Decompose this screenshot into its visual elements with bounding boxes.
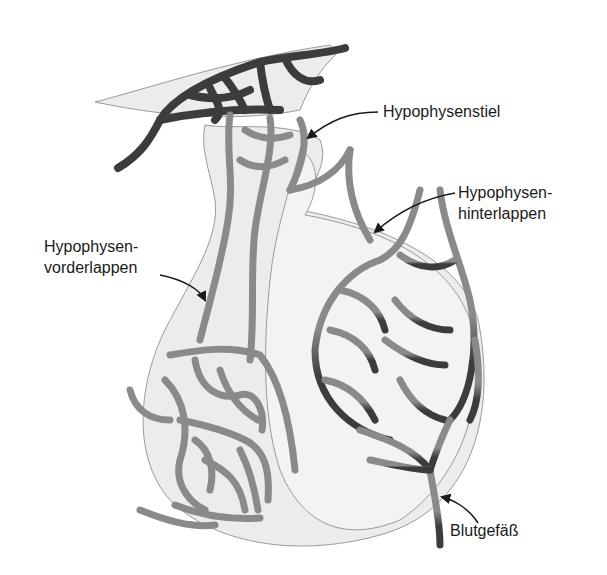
pituitary-diagram [0,0,607,575]
label-anterior-line1: Hypophysen- [44,238,138,255]
label-anterior-line2: vorderlappen [44,259,137,276]
label-posterior-line1: Hypophysen- [458,184,552,201]
label-stalk: Hypophysenstiel [383,101,500,122]
label-vessel-text: Blutgefäß [450,522,518,539]
label-stalk-text: Hypophysenstiel [383,103,500,120]
label-posterior-lobe: Hypophysen-hinterlappen [458,182,552,224]
label-posterior-line2: hinterlappen [458,205,546,222]
arrow-stalk [308,112,378,138]
label-vessel: Blutgefäß [450,520,518,541]
label-anterior-lobe: Hypophysen-vorderlappen [44,236,138,278]
